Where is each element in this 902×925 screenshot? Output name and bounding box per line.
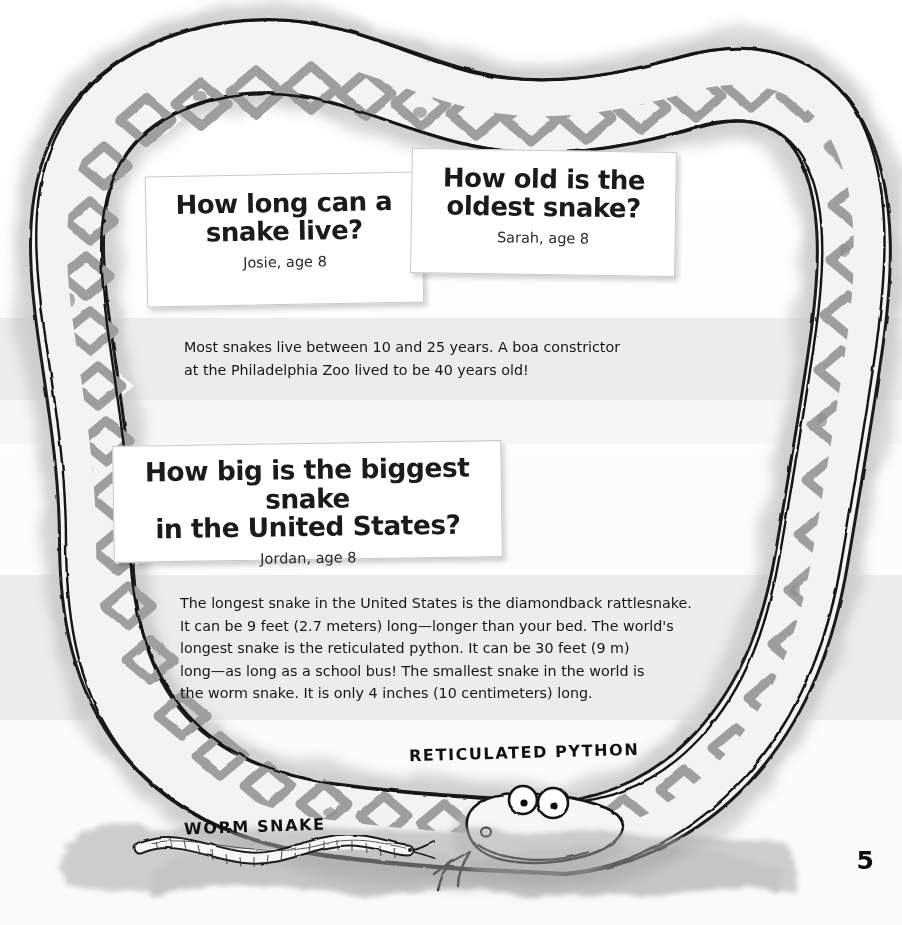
question-card-snake-lifespan[interactable]: How long can a snake live? Josie, age 8 [145, 171, 424, 307]
page-number: 5 [857, 846, 874, 875]
question-attribution: Josie, age 8 [165, 252, 404, 272]
answer-snake-lifespan: Most snakes live between 10 and 25 years… [184, 336, 654, 381]
question-text: How big is the biggest snake in the Unit… [131, 453, 483, 544]
answer-biggest-snake: The longest snake in the United States i… [180, 592, 700, 705]
question-card-biggest-snake[interactable]: How big is the biggest snake in the Unit… [112, 440, 503, 563]
question-attribution: Sarah, age 8 [429, 228, 656, 248]
book-page: How long can a snake live? Josie, age 8 … [0, 0, 902, 925]
question-card-oldest-snake[interactable]: How old is the oldest snake? Sarah, age … [410, 148, 677, 277]
question-text: How old is the oldest snake? [430, 163, 658, 223]
page-upper-band [0, 400, 902, 444]
question-text: How long can a snake live? [164, 187, 404, 248]
